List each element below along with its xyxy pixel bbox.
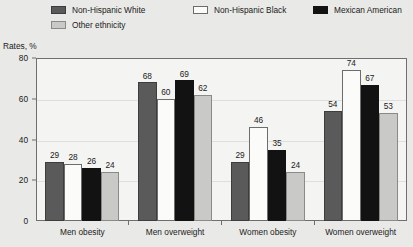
bar[interactable] xyxy=(138,82,157,221)
bar-group: 68606962 xyxy=(129,58,222,221)
bar-column[interactable]: 24 xyxy=(286,58,305,221)
bar-group-bars: 29463524 xyxy=(222,58,315,221)
bar-column[interactable]: 35 xyxy=(268,58,287,221)
x-axis-group-separator xyxy=(314,221,315,225)
legend-swatch-icon-non-hispanic-black xyxy=(193,6,208,14)
y-axis-tick-label: 60 xyxy=(19,95,28,103)
bar-column[interactable]: 67 xyxy=(361,58,380,221)
x-axis-label: Women overweight xyxy=(325,228,396,236)
legend-item-other-ethnicity[interactable]: Other ethnicity xyxy=(51,21,126,29)
bar-group-bars: 54746753 xyxy=(314,58,407,221)
bar-column[interactable]: 74 xyxy=(342,58,361,221)
bar[interactable] xyxy=(286,172,305,221)
legend-label-non-hispanic-black: Non-Hispanic Black xyxy=(214,6,286,14)
legend-item-mexican-american[interactable]: Mexican American xyxy=(313,6,402,14)
bar-column[interactable]: 29 xyxy=(45,58,64,221)
bar-column[interactable]: 53 xyxy=(379,58,398,221)
y-axis-tick-label: 0 xyxy=(23,217,28,225)
bar-column[interactable]: 26 xyxy=(82,58,101,221)
bar-column[interactable]: 68 xyxy=(138,58,157,221)
bar-group: 29463524 xyxy=(222,58,315,221)
legend-swatch-icon-mexican-american xyxy=(313,6,328,14)
legend-swatch-icon-non-hispanic-white xyxy=(51,6,66,14)
legend-item-non-hispanic-white[interactable]: Non-Hispanic White xyxy=(51,6,145,14)
bar-value-label: 24 xyxy=(95,161,125,169)
x-axis-group-separator xyxy=(128,221,129,225)
bar[interactable] xyxy=(82,168,101,221)
bar[interactable] xyxy=(231,162,250,221)
bar-column[interactable]: 54 xyxy=(324,58,343,221)
bar-column[interactable]: 24 xyxy=(101,58,120,221)
bar-column[interactable]: 60 xyxy=(157,58,176,221)
y-axis-tick-label: 40 xyxy=(19,135,28,143)
x-axis-group-separator xyxy=(221,221,222,225)
bar[interactable] xyxy=(45,162,64,221)
bar[interactable] xyxy=(64,164,83,221)
chart-root: Non-Hispanic White Non-Hispanic Black Me… xyxy=(0,0,413,247)
bar-column[interactable]: 29 xyxy=(231,58,250,221)
y-axis-tick-label: 20 xyxy=(19,176,28,184)
legend-swatch-icon-other-ethnicity xyxy=(51,21,66,29)
legend-item-non-hispanic-black[interactable]: Non-Hispanic Black xyxy=(193,6,286,14)
x-axis-label: Women obesity xyxy=(239,228,296,236)
bar[interactable] xyxy=(379,113,398,221)
bar-column[interactable]: 28 xyxy=(64,58,83,221)
bar-value-label: 53 xyxy=(373,102,403,110)
y-axis-ticks: 020406080 xyxy=(0,0,36,247)
bar[interactable] xyxy=(101,172,120,221)
bar-value-label: 62 xyxy=(188,84,218,92)
bar-group: 29282624 xyxy=(36,58,129,221)
bar[interactable] xyxy=(194,95,213,221)
bar[interactable] xyxy=(157,99,176,221)
bar-group-bars: 29282624 xyxy=(36,58,129,221)
bar-groups: 29282624686069622946352454746753 xyxy=(36,58,407,221)
bar-column[interactable]: 62 xyxy=(194,58,213,221)
x-axis-label: Men obesity xyxy=(60,228,105,236)
bar-column[interactable]: 69 xyxy=(175,58,194,221)
bar[interactable] xyxy=(324,111,343,221)
legend-label-mexican-american: Mexican American xyxy=(334,6,402,14)
bar[interactable] xyxy=(342,70,361,221)
x-axis-label: Men overweight xyxy=(146,228,205,236)
bar-group: 54746753 xyxy=(314,58,407,221)
legend-label-other-ethnicity: Other ethnicity xyxy=(72,21,126,29)
y-axis-tick-label: 80 xyxy=(19,54,28,62)
bar-value-label: 24 xyxy=(281,161,311,169)
bar-group-bars: 68606962 xyxy=(129,58,222,221)
bar[interactable] xyxy=(175,80,194,221)
legend-label-non-hispanic-white: Non-Hispanic White xyxy=(72,6,145,14)
